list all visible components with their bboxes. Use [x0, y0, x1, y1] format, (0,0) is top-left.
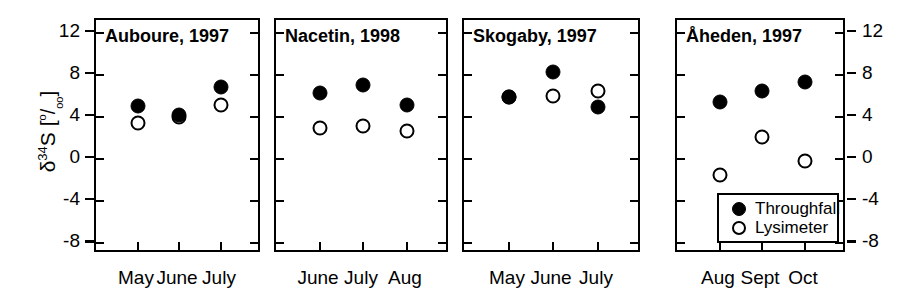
- y-tick-mark: [96, 242, 104, 244]
- data-point-throughfall: [214, 80, 229, 95]
- y-tick-mark: [677, 32, 685, 34]
- y-tick-mark: [630, 200, 638, 202]
- x-tick-mark: [406, 242, 408, 250]
- data-point-throughfall: [546, 64, 561, 79]
- legend-label: Throughfall: [755, 199, 840, 218]
- x-tick-label: Sept: [740, 268, 779, 287]
- x-tick-mark: [220, 242, 222, 250]
- y-tick-mark: [276, 74, 284, 76]
- y-tick-mark: [276, 116, 284, 118]
- y-tick-label-left: 4: [40, 105, 80, 124]
- y-tick-mark: [464, 74, 472, 76]
- y-tick-mark: [438, 200, 446, 202]
- y-tick-mark-left-outer: [85, 30, 94, 32]
- x-tick-mark: [804, 242, 806, 250]
- y-tick-label-right: 4: [862, 105, 897, 124]
- y-tick-mark-right-outer: [847, 156, 856, 158]
- y-tick-mark: [464, 158, 472, 160]
- y-tick-mark: [276, 242, 284, 244]
- y-tick-mark-left-outer: [85, 156, 94, 158]
- figure-root: δ34S [o/oo] 12840-4-812840-4-8Auboure, 1…: [0, 0, 897, 303]
- y-tick-mark: [630, 74, 638, 76]
- y-tick-label-right: -8: [862, 231, 897, 250]
- x-tick-label: July: [579, 268, 613, 287]
- x-tick-label: Aug: [701, 268, 735, 287]
- x-tick-mark: [362, 242, 364, 250]
- y-tick-mark-right-outer: [847, 72, 856, 74]
- y-tick-label-left: -4: [40, 189, 80, 208]
- legend-row: Lysimeter: [725, 218, 829, 237]
- y-tick-mark: [250, 242, 258, 244]
- y-tick-label-left: 8: [40, 63, 80, 82]
- x-tick-mark: [761, 242, 763, 250]
- data-point-lysimeter: [798, 154, 813, 169]
- panel-title: Auboure, 1997: [105, 26, 229, 47]
- panel-title: Åheden, 1997: [686, 26, 802, 47]
- y-tick-mark: [96, 116, 104, 118]
- y-tick-label-right: 0: [862, 147, 897, 166]
- legend-row: Throughfall: [725, 199, 829, 218]
- data-point-lysimeter: [131, 116, 146, 131]
- data-point-throughfall: [591, 100, 606, 115]
- data-point-lysimeter: [591, 83, 606, 98]
- y-tick-mark: [276, 200, 284, 202]
- y-tick-mark: [96, 158, 104, 160]
- y-axis-title: δ34S [o/oo]: [35, 22, 62, 242]
- y-tick-mark-left-outer: [85, 114, 94, 116]
- y-tick-mark-right-outer: [847, 30, 856, 32]
- data-point-lysimeter: [313, 120, 328, 135]
- x-tick-label: June: [156, 268, 197, 287]
- y-tick-label-left: 0: [40, 147, 80, 166]
- y-tick-label-left: 12: [40, 21, 80, 40]
- x-tick-label: May: [489, 268, 525, 287]
- y-tick-mark: [464, 200, 472, 202]
- y-tick-mark: [276, 158, 284, 160]
- y-tick-mark: [835, 32, 843, 34]
- panel-nacetin: Nacetin, 1998: [274, 18, 448, 252]
- y-tick-label-right: -4: [862, 189, 897, 208]
- x-tick-label: Aug: [388, 268, 422, 287]
- y-tick-mark-left-outer: [85, 240, 94, 242]
- data-point-lysimeter: [546, 88, 561, 103]
- y-tick-mark: [835, 116, 843, 118]
- y-tick-mark-right-outer: [847, 240, 856, 242]
- y-tick-mark: [835, 74, 843, 76]
- y-tick-mark: [96, 74, 104, 76]
- data-point-lysimeter: [713, 167, 728, 182]
- y-tick-mark: [677, 74, 685, 76]
- y-tick-label-right: 12: [862, 21, 897, 40]
- y-tick-mark-right-outer: [847, 114, 856, 116]
- y-tick-mark: [438, 32, 446, 34]
- legend-label: Lysimeter: [755, 218, 828, 237]
- x-tick-mark: [719, 242, 721, 250]
- y-axis-title-element: S [: [36, 120, 59, 146]
- data-point-throughfall: [313, 85, 328, 100]
- x-tick-label: June: [297, 268, 338, 287]
- x-tick-label: June: [530, 268, 571, 287]
- y-tick-mark: [438, 116, 446, 118]
- x-tick-label: May: [118, 268, 154, 287]
- data-point-throughfall: [131, 99, 146, 114]
- y-tick-mark: [677, 200, 685, 202]
- legend-marker-throughfall: [732, 202, 746, 216]
- y-tick-mark: [250, 158, 258, 160]
- x-tick-label: Oct: [788, 268, 818, 287]
- y-tick-mark: [438, 74, 446, 76]
- data-point-lysimeter: [755, 130, 770, 145]
- y-tick-mark: [438, 158, 446, 160]
- data-point-throughfall: [400, 98, 415, 113]
- data-point-throughfall: [356, 78, 371, 93]
- y-tick-mark: [835, 158, 843, 160]
- legend-swatch: [725, 199, 755, 218]
- legend-swatch: [725, 218, 755, 237]
- y-tick-mark-left-outer: [85, 198, 94, 200]
- y-tick-mark: [677, 242, 685, 244]
- y-tick-mark: [250, 200, 258, 202]
- y-tick-mark: [630, 32, 638, 34]
- x-tick-mark: [319, 242, 321, 250]
- y-tick-mark: [630, 242, 638, 244]
- data-point-lysimeter: [400, 123, 415, 138]
- y-tick-mark: [96, 200, 104, 202]
- data-point-throughfall: [172, 107, 187, 122]
- x-tick-label: July: [202, 268, 236, 287]
